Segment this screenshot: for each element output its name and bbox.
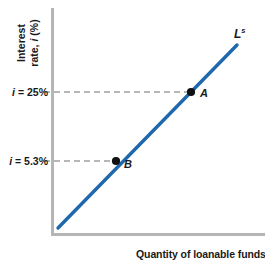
y-tick-label-25-percent: i = 25%: [0, 86, 48, 98]
point-label-a: A: [200, 87, 208, 99]
y-tick-5-3-value: = 5.3%: [12, 155, 48, 167]
y-axis-title-line2-suffix: (%): [28, 19, 40, 38]
y-axis-title: Interest rate, i (%): [15, 7, 41, 79]
y-axis-title-wrapper: Interest rate, i (%): [6, 2, 50, 76]
y-axis-title-line2-italic: i: [28, 39, 40, 42]
curve-label-superscript: s: [241, 26, 245, 35]
y-tick-25-value: = 25%: [15, 86, 48, 98]
supply-curve-ls: [58, 45, 237, 228]
loanable-funds-supply-chart: Interest rate, i (%) i = 25% i = 5.3% A …: [0, 0, 265, 264]
y-axis-title-line1: Interest: [15, 24, 27, 62]
point-label-b: B: [124, 158, 132, 170]
x-axis-title: Quantity of loanable funds.: [136, 248, 265, 261]
y-axis-title-line2-prefix: rate,: [28, 42, 40, 67]
data-point-a: [187, 88, 195, 96]
curve-label-ls: Ls: [234, 27, 246, 41]
data-point-b: [112, 157, 120, 165]
y-tick-label-5-3-percent: i = 5.3%: [0, 155, 48, 167]
